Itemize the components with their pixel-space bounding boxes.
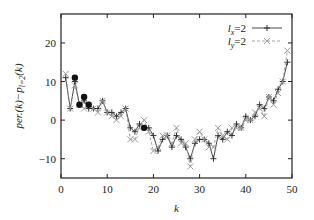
legend-plus-marker	[264, 25, 270, 31]
plus-marker	[210, 156, 216, 162]
y-tick-label: 10	[45, 76, 57, 88]
x-tick-label: 10	[102, 183, 114, 195]
x-marker	[215, 125, 221, 131]
legend: lx=2ly=2	[228, 22, 282, 50]
dot-marker	[72, 74, 78, 80]
dot-marker	[86, 101, 92, 107]
series-0	[63, 59, 291, 161]
x-tick-label: 50	[287, 183, 299, 195]
series-layer	[63, 48, 291, 170]
x-marker	[132, 136, 138, 142]
dot-marker	[81, 94, 87, 100]
dot-marker	[141, 125, 147, 131]
x-marker	[197, 129, 203, 135]
plot-border	[61, 14, 292, 178]
x-marker	[141, 117, 147, 123]
chart-canvas: 01020304050−1001020 kper.(k)−pl=2(k) lx=…	[0, 0, 314, 220]
x-tick-label: 20	[148, 183, 160, 195]
series-line	[66, 62, 288, 158]
x-marker	[174, 125, 180, 131]
x-marker	[261, 113, 267, 119]
x-tick-label: 40	[240, 183, 252, 195]
dot-marker	[76, 101, 82, 107]
x-marker	[187, 163, 193, 169]
legend-label-1: ly=2	[228, 35, 246, 50]
x-tick-label: 0	[58, 183, 64, 195]
y-tick-label: −10	[39, 153, 57, 165]
y-tick-label: 20	[45, 37, 57, 49]
series-2	[72, 74, 148, 131]
plus-marker	[150, 133, 156, 139]
x-tick-label: 30	[194, 183, 206, 195]
x-axis-title: k	[174, 202, 180, 214]
y-tick-label: 0	[51, 114, 57, 126]
y-axis-title: per.(k)−pl=2(k)	[12, 63, 27, 129]
